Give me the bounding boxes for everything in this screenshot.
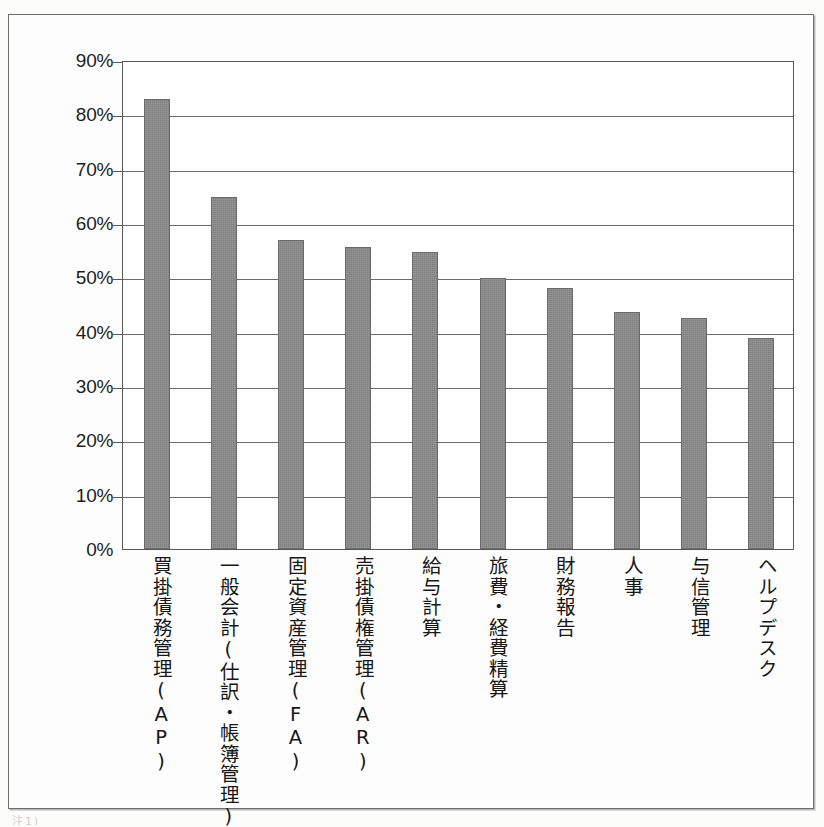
y-axis-tick-label: 60% (76, 213, 113, 235)
bar (412, 252, 438, 549)
y-axis-tick-80 (112, 116, 123, 117)
bar (144, 99, 170, 549)
y-axis-tick-30 (112, 388, 123, 389)
y-axis-tick-label: 0% (86, 539, 113, 561)
y-axis-tick-label: 80% (76, 104, 113, 126)
y-axis-tick-label: 70% (76, 159, 113, 181)
figure-frame: 90%80%70%60%50%40%30%20%10%0% 買掛債務管理(AP)… (8, 14, 814, 809)
y-axis-tick-label: 30% (76, 376, 113, 398)
x-axis-category-label: 財務報告 (544, 556, 574, 638)
y-axis-tick-label: 10% (76, 485, 113, 507)
plot-area (122, 61, 794, 550)
x-axis-category-label: 買掛債務管理(AP) (141, 556, 171, 773)
bar (211, 197, 237, 549)
bar (547, 288, 573, 549)
y-axis-tick-label: 40% (76, 322, 113, 344)
y-axis-labels: 90%80%70%60%50%40%30%20%10%0% (9, 61, 113, 550)
y-axis-tick-10 (112, 497, 123, 498)
gridline-70 (123, 171, 793, 172)
x-axis-category-label: 一般会計(仕訳・帳簿管理) (208, 556, 238, 827)
x-axis-category-label: 給与計算 (409, 556, 439, 638)
bar (681, 318, 707, 549)
x-axis-category-label: 固定資産管理(FA) (275, 556, 305, 773)
bar (614, 312, 640, 549)
y-axis-tick-40 (112, 334, 123, 335)
bar (278, 240, 304, 549)
x-axis-category-label: 与信管理 (678, 556, 708, 638)
y-axis-tick-20 (112, 442, 123, 443)
y-axis-tick-50 (112, 279, 123, 280)
bar (748, 338, 774, 549)
y-axis-tick-90 (112, 62, 123, 63)
y-axis-tick-60 (112, 225, 123, 226)
bar (345, 247, 371, 549)
x-axis-category-label: ヘルプデスク (745, 556, 775, 679)
x-axis-category-label: 人事 (611, 556, 641, 597)
y-axis-tick-70 (112, 171, 123, 172)
y-axis-tick-label: 50% (76, 267, 113, 289)
x-axis-category-label: 売掛債権管理(AR) (342, 556, 372, 773)
page-caption-fragment: 注1) (12, 812, 212, 825)
gridline-80 (123, 116, 793, 117)
y-axis-tick-label: 90% (76, 50, 113, 72)
y-axis-tick-label: 20% (76, 430, 113, 452)
scanned-page: 90%80%70%60%50%40%30%20%10%0% 買掛債務管理(AP)… (0, 0, 824, 827)
bar (480, 278, 506, 549)
x-axis-category-label: 旅費・経費精算 (477, 556, 507, 700)
x-axis-labels: 買掛債務管理(AP)一般会計(仕訳・帳簿管理)固定資産管理(FA)売掛債権管理(… (122, 552, 794, 814)
